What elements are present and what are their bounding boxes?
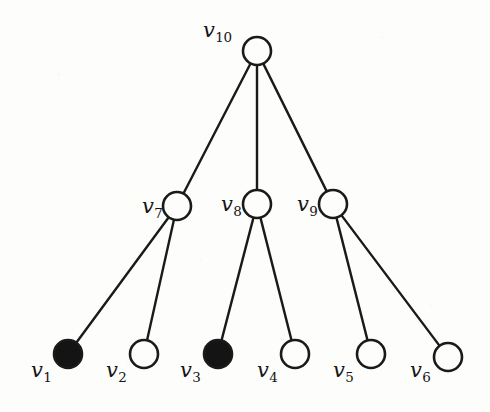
node-label-subscript-v1: 1 <box>43 370 51 385</box>
tree-diagram-figure: v1v2v3v4v5v6v7v8v9v10 <box>0 0 490 412</box>
node-label-v1: v1 <box>31 360 51 381</box>
node-label-base-v4: v <box>257 358 269 382</box>
node-label-base-v3: v <box>180 358 192 382</box>
node-label-v3: v3 <box>180 360 200 381</box>
node-v6[interactable] <box>434 343 462 371</box>
node-label-subscript-v5: 5 <box>345 370 353 385</box>
edge-v7-v1 <box>76 216 170 343</box>
node-label-v8: v8 <box>221 194 241 215</box>
node-label-base-v1: v <box>31 358 43 382</box>
node-v5[interactable] <box>357 340 385 368</box>
node-label-v5: v5 <box>333 360 353 381</box>
node-label-base-v9: v <box>297 192 309 216</box>
edge-v8-v3 <box>221 217 253 342</box>
node-label-v10: v10 <box>203 20 232 41</box>
node-v2[interactable] <box>130 340 158 368</box>
edge-v7-v2 <box>147 219 174 342</box>
edge-v9-v6 <box>341 214 440 346</box>
node-label-subscript-v4: 4 <box>269 370 277 385</box>
node-label-v4: v4 <box>257 360 277 381</box>
node-label-base-v6: v <box>410 358 422 382</box>
graph-canvas <box>0 0 490 412</box>
node-v3[interactable] <box>204 340 232 368</box>
edge-v10-v7 <box>183 63 251 195</box>
node-label-v9: v9 <box>297 194 317 215</box>
node-label-base-v2: v <box>106 358 118 382</box>
node-label-subscript-v7: 7 <box>154 206 162 221</box>
node-v4[interactable] <box>281 340 309 368</box>
node-v8[interactable] <box>243 190 271 218</box>
node-label-v7: v7 <box>142 196 162 217</box>
node-label-subscript-v8: 8 <box>233 204 241 219</box>
node-v9[interactable] <box>319 190 347 218</box>
edge-v10-v9 <box>263 63 327 193</box>
node-label-subscript-v3: 3 <box>192 370 200 385</box>
node-label-base-v7: v <box>142 194 154 218</box>
edge-v8-v4 <box>260 217 292 342</box>
node-label-v6: v6 <box>410 360 430 381</box>
node-v10[interactable] <box>243 37 271 65</box>
node-v1[interactable] <box>54 340 82 368</box>
node-label-subscript-v2: 2 <box>118 370 126 385</box>
node-label-subscript-v10: 10 <box>215 30 232 45</box>
node-label-v2: v2 <box>106 360 126 381</box>
node-v7[interactable] <box>163 192 191 220</box>
node-label-base-v8: v <box>221 192 233 216</box>
edge-v9-v5 <box>336 217 368 342</box>
node-label-base-v10: v <box>203 18 215 42</box>
node-label-subscript-v9: 9 <box>309 204 317 219</box>
node-label-subscript-v6: 6 <box>422 370 430 385</box>
node-label-base-v5: v <box>333 358 345 382</box>
